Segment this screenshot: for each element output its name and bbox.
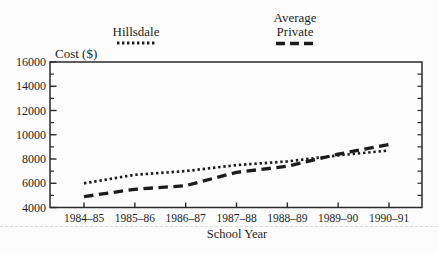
x-tick-label: 1986–87 bbox=[166, 212, 207, 224]
x-tick-label: 1990–91 bbox=[369, 212, 410, 224]
hillsdale-series-line bbox=[84, 151, 389, 184]
y-tick-label: 16000 bbox=[16, 55, 46, 69]
cost-line-chart-figure: Hillsdale Average Private Cost ($) 40006… bbox=[0, 0, 438, 253]
x-tick-label: 1987–88 bbox=[216, 212, 257, 224]
y-tick-label: 12000 bbox=[16, 104, 46, 118]
x-tick-label: 1985–86 bbox=[115, 212, 156, 224]
x-axis-title: School Year bbox=[162, 227, 312, 242]
x-tick-label: 1988–89 bbox=[267, 212, 308, 224]
y-tick-label: 6000 bbox=[22, 176, 46, 190]
y-tick-label: 14000 bbox=[16, 79, 46, 93]
x-tick-label: 1984–85 bbox=[64, 212, 105, 224]
y-tick-label: 10000 bbox=[16, 128, 46, 142]
average-private-series-line bbox=[84, 144, 389, 196]
y-tick-label: 8000 bbox=[22, 152, 46, 166]
x-tick-label: 1989–90 bbox=[318, 212, 359, 224]
plot-area: 400060008000100001200014000160001984–851… bbox=[0, 0, 438, 253]
plot-frame bbox=[50, 62, 422, 208]
y-tick-label: 4000 bbox=[22, 201, 46, 215]
